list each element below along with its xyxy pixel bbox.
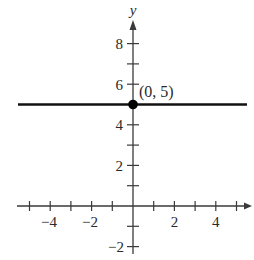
y-axis-label: y [128,2,137,18]
x-tick-label-neg4: −4 [41,214,57,230]
y-tick-label-6: 6 [116,77,124,93]
point-label: (0, 5) [139,83,174,101]
point-0-5 [128,100,138,110]
y-tick-label-neg2: −2 [108,239,124,255]
x-axis-arrow-icon [244,203,252,210]
x-axis: −4 −2 2 4 [17,201,252,230]
x-tick-label-2: 2 [171,214,179,230]
y-tick-label-8: 8 [116,36,124,52]
y-tick-label-4: 4 [116,117,124,133]
y-tick-label-2: 2 [116,158,124,174]
y-axis-arrow-icon [130,20,137,30]
graph-figure: −4 −2 2 4 y 8 6 4 2 [0,0,254,260]
x-tick-label-neg2: −2 [82,214,98,230]
y-axis: y 8 6 4 2 −2 [108,2,139,255]
x-tick-label-4: 4 [212,214,220,230]
